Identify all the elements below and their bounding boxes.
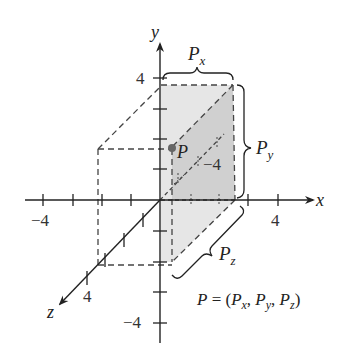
point-p-marker — [168, 144, 176, 152]
coordinate-diagram: y x z −4 4 4 −4 4 −4 P Px Py Pz P = (Px,… — [0, 0, 351, 351]
z-pos-tick-label: 4 — [83, 287, 92, 306]
z-ticks — [87, 213, 143, 285]
z-axis — [60, 200, 160, 304]
py-label: Py — [255, 137, 274, 162]
z-neg-tick-label: −4 — [203, 155, 222, 174]
point-p-label: P — [176, 142, 188, 162]
y-axis-label: y — [149, 22, 159, 42]
y-pos-tick-label: 4 — [136, 69, 145, 88]
coordinate-equation: P = (Px, Py, Pz) — [196, 290, 300, 312]
pz-label: Pz — [218, 243, 236, 268]
x-axis-label: x — [315, 190, 324, 210]
x-pos-tick-label: 4 — [271, 211, 280, 230]
x-neg-tick-label: −4 — [31, 211, 50, 230]
z-axis-label: z — [46, 302, 54, 322]
y-neg-tick-label: −4 — [123, 313, 142, 332]
px-label: Px — [187, 43, 206, 68]
py-bracket — [237, 85, 251, 198]
px-bracket — [163, 67, 233, 80]
